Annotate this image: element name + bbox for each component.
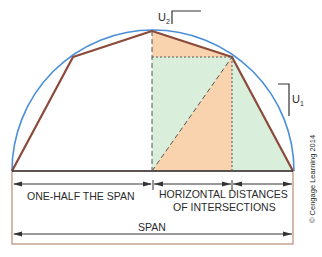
of-intersections-label: OF INTERSECTIONS bbox=[173, 201, 276, 213]
u2-section-mark bbox=[172, 11, 201, 24]
span-label: SPAN bbox=[138, 221, 166, 233]
copyright-text: © Cengage Learning 2014 bbox=[308, 135, 317, 223]
u1-label: U1 bbox=[292, 93, 304, 107]
arrowhead-right bbox=[143, 182, 152, 187]
arrowhead-right bbox=[283, 182, 292, 187]
arrowhead-right bbox=[222, 182, 231, 187]
arrowhead-right bbox=[283, 232, 292, 237]
arrowhead-left bbox=[154, 182, 163, 187]
u1-section-mark bbox=[278, 84, 289, 116]
arrowhead-left bbox=[13, 182, 22, 187]
one-half-span-label: ONE-HALF THE SPAN bbox=[27, 190, 135, 202]
arrowhead-left bbox=[13, 232, 22, 237]
arrowhead-left bbox=[233, 182, 242, 187]
horizontal-distances-label: HORIZONTAL DISTANCES bbox=[159, 188, 288, 200]
arch-diagram: U2 U1 ONE-HALF THE SPAN HORIZONTAL DISTA… bbox=[0, 0, 322, 257]
u2-label: U2 bbox=[158, 11, 170, 25]
